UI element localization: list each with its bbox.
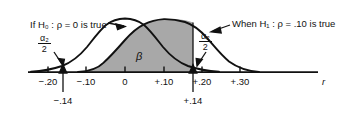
alternative-hypothesis-callout-label: When H₁ : ρ = .10 is true bbox=[232, 19, 335, 29]
axis-tick-label-zero: 0 bbox=[122, 76, 127, 87]
power-curve-figure: If H₀ : ρ = 0 is true When H₁ : ρ = .10 … bbox=[0, 0, 346, 116]
axis-tick-label-neg20: −.20 bbox=[39, 76, 58, 87]
axis-tick-label-neg10: −.10 bbox=[77, 76, 96, 87]
alpha-right-denominator: 2 bbox=[199, 41, 212, 52]
alpha-right-numerator: α₂ bbox=[199, 31, 212, 41]
alpha-left-denominator: 2 bbox=[38, 43, 51, 54]
alpha-left-fraction: α₂ 2 bbox=[38, 33, 51, 54]
x-axis-label: r bbox=[322, 76, 325, 87]
alpha-right-fraction: α₂ 2 bbox=[199, 31, 212, 52]
critical-value-label-positive: +.14 bbox=[184, 95, 203, 106]
beta-symbol-label: β bbox=[136, 50, 142, 62]
axis-tick-label-pos20: +.20 bbox=[193, 76, 212, 87]
null-hypothesis-callout-label: If H₀ : ρ = 0 is true bbox=[30, 20, 107, 30]
axis-tick-label-pos30: +.30 bbox=[231, 76, 250, 87]
critical-value-label-negative: −.14 bbox=[54, 95, 73, 106]
axis-tick-label-pos10: +.10 bbox=[155, 76, 174, 87]
alpha-left-numerator: α₂ bbox=[38, 33, 51, 43]
